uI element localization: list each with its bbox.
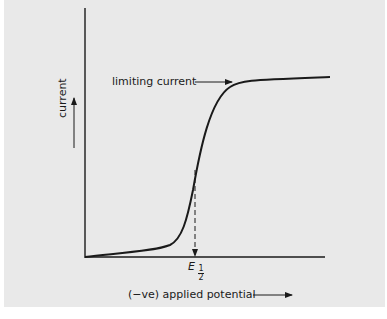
- half-wave-potential-label: E 1 2: [188, 260, 204, 282]
- half-wave-E: E: [188, 260, 195, 273]
- half-wave-sub-den: 2: [198, 274, 203, 282]
- y-axis-label: current: [56, 68, 69, 118]
- x-axis-label: (−ve) applied potential: [128, 288, 256, 301]
- wave-curve: [85, 77, 330, 257]
- limiting-current-label: limiting current: [112, 75, 196, 88]
